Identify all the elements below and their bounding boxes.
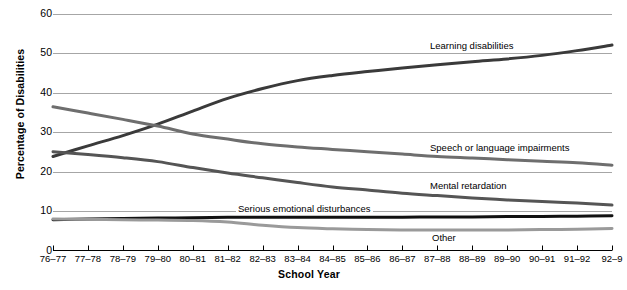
x-axis-tick-marks <box>54 246 613 251</box>
x-axis-title: School Year <box>0 268 618 280</box>
x-tick-label: 81–82 <box>210 253 246 264</box>
series-label: Speech or language impairments <box>428 142 571 153</box>
x-tick-label: 76–77 <box>35 253 71 264</box>
x-tick-label: 88–89 <box>454 253 490 264</box>
series-label: Learning disabilities <box>428 40 515 51</box>
x-tick-label: 82–83 <box>245 253 281 264</box>
x-tick-label: 89–90 <box>489 253 525 264</box>
y-tick-label: 10 <box>22 204 52 216</box>
x-tick-label: 85–86 <box>349 253 385 264</box>
x-tick-label: 80–81 <box>175 253 211 264</box>
y-tick-label: 60 <box>22 7 52 19</box>
x-tick-label: 86–87 <box>384 253 420 264</box>
y-tick-label: 20 <box>22 165 52 177</box>
series-line <box>53 219 612 230</box>
x-tick-label: 79–80 <box>140 253 176 264</box>
x-tick-label: 83–84 <box>280 253 316 264</box>
x-tick-label: 87–88 <box>419 253 455 264</box>
series-label: Other <box>430 232 458 243</box>
gridlines <box>53 15 612 212</box>
series-label: Serious emotional disturbances <box>236 203 373 214</box>
series-label: Mental retardation <box>428 180 509 191</box>
y-tick-label: 30 <box>22 125 52 137</box>
y-tick-label: 50 <box>22 46 52 58</box>
series-line <box>53 107 612 165</box>
x-tick-label: 92–9 <box>594 253 627 264</box>
y-tick-label: 40 <box>22 86 52 98</box>
x-tick-label: 91–92 <box>559 253 595 264</box>
series-line <box>53 45 612 156</box>
x-tick-label: 77–78 <box>70 253 106 264</box>
x-tick-label: 84–85 <box>315 253 351 264</box>
x-tick-label: 78–79 <box>105 253 141 264</box>
x-tick-label: 90–91 <box>524 253 560 264</box>
